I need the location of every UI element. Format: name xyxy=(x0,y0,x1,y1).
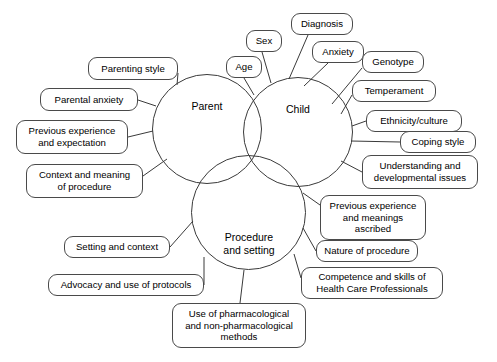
connector-line-previous-experience-meanings xyxy=(303,193,320,205)
factor-node-context-meaning-procedure[interactable]: Context and meaning of procedure xyxy=(26,164,143,198)
venn-circle-label-procedure: Procedure and setting xyxy=(208,231,290,257)
connector-line-ethnicity-culture xyxy=(352,121,366,126)
factor-node-coping-style[interactable]: Coping style xyxy=(400,131,476,153)
connector-line-parental-anxiety xyxy=(138,100,156,106)
factor-node-previous-experience-meanings[interactable]: Previous experience and meanings ascribe… xyxy=(320,195,426,240)
connector-line-diagnosis xyxy=(289,35,308,79)
venn-circle-label-child: Child xyxy=(263,103,333,116)
factor-node-anxiety[interactable]: Anxiety xyxy=(312,41,364,63)
factor-node-competence-skills-hcp[interactable]: Competence and skills of Health Care Pro… xyxy=(301,267,443,299)
factor-node-advocacy-use-protocols[interactable]: Advocacy and use of protocols xyxy=(48,274,204,296)
connector-line-coping-style xyxy=(351,141,400,142)
factor-node-use-pharmacological-methods[interactable]: Use of pharmacological and non-pharmacol… xyxy=(172,303,306,348)
connector-line-competence-skills-hcp xyxy=(294,254,301,278)
factor-node-understanding-developmental[interactable]: Understanding and developmental issues xyxy=(362,155,478,189)
connector-line-previous-experience-expectation xyxy=(128,131,153,137)
factor-node-parental-anxiety[interactable]: Parental anxiety xyxy=(40,88,138,111)
connector-line-nature-of-procedure xyxy=(303,228,316,251)
factor-node-sex[interactable]: Sex xyxy=(246,30,282,52)
factor-node-previous-experience-expectation[interactable]: Previous experience and expectation xyxy=(16,120,128,154)
venn-circle-label-parent: Parent xyxy=(172,100,242,113)
factor-node-parenting-style[interactable]: Parenting style xyxy=(88,57,178,80)
factor-node-genotype[interactable]: Genotype xyxy=(362,51,424,73)
connector-line-setting-and-context xyxy=(170,221,193,247)
connector-line-use-pharmacological-methods xyxy=(240,270,244,303)
connector-line-understanding-developmental xyxy=(341,161,362,172)
connector-line-sex xyxy=(262,52,271,83)
factor-node-nature-of-procedure[interactable]: Nature of procedure xyxy=(316,240,418,262)
factor-node-ethnicity-culture[interactable]: Ethnicity/culture xyxy=(366,110,462,132)
venn-diagram-canvas: ParentChildProcedure and setting Parenti… xyxy=(0,0,497,362)
factor-node-setting-and-context[interactable]: Setting and context xyxy=(64,236,170,258)
factor-node-temperament[interactable]: Temperament xyxy=(352,80,436,102)
factor-node-diagnosis[interactable]: Diagnosis xyxy=(291,13,353,35)
factor-node-age[interactable]: Age xyxy=(226,56,262,78)
